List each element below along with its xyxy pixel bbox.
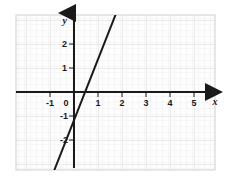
y-tick-label-2: 2 bbox=[62, 39, 67, 49]
y-tick-label-1: 1 bbox=[62, 63, 67, 73]
graph-canvas: -1 0 1 2 3 4 5 2 1 -1 -2 y x bbox=[0, 0, 230, 184]
y-tick-label-neg1: -1 bbox=[60, 111, 68, 121]
x-tick-label-3: 3 bbox=[143, 98, 148, 108]
y-tick-label-neg2: -2 bbox=[60, 135, 68, 145]
y-axis-label: y bbox=[62, 15, 68, 26]
x-axis-label: x bbox=[212, 96, 218, 107]
x-tick-label-2: 2 bbox=[119, 98, 124, 108]
x-tick-label-neg1: -1 bbox=[46, 98, 54, 108]
x-tick-label-4: 4 bbox=[167, 98, 172, 108]
coordinate-plane-figure: -1 0 1 2 3 4 5 2 1 -1 -2 y x bbox=[0, 0, 230, 184]
x-tick-label-5: 5 bbox=[191, 98, 196, 108]
x-tick-label-0: 0 bbox=[63, 98, 68, 108]
x-tick-label-1: 1 bbox=[95, 98, 100, 108]
